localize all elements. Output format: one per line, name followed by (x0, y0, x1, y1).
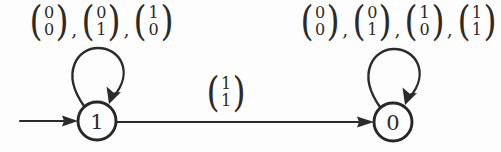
vector-bottom: 1 (367, 22, 377, 38)
state-diagram-canvas: 1 0 ( 0 0 ) , ( 0 1 ) , ( (0, 0, 501, 152)
vector-label: ( 0 0 ) (299, 5, 341, 39)
vector-label: ( 0 0 ) (28, 5, 70, 39)
vector-entries: 1 1 (221, 76, 231, 109)
self-loop-state-1 (73, 48, 124, 106)
vector-entries: 0 1 (96, 5, 106, 38)
vector-bottom: 0 (44, 22, 54, 38)
left-paren: ( (134, 5, 147, 39)
state-node-1[interactable]: 1 (78, 102, 116, 140)
vector-entries: 1 0 (419, 5, 429, 38)
right-paren: ) (233, 76, 246, 110)
label-separator: , (122, 18, 132, 40)
left-paren: ( (29, 5, 42, 39)
right-paren: ) (160, 5, 173, 39)
left-paren: ( (405, 5, 418, 39)
vector-label: ( 1 1 ) (456, 5, 498, 39)
vector-bottom: 0 (315, 22, 325, 38)
vector-entries: 1 1 (472, 5, 482, 38)
left-paren: ( (457, 5, 470, 39)
vector-label: ( 1 0 ) (132, 5, 174, 39)
vector-bottom: 1 (96, 22, 106, 38)
vector-bottom: 1 (221, 93, 231, 109)
right-paren: ) (431, 5, 444, 39)
self-loop-left-label-group: ( 0 0 ) , ( 0 1 ) , ( 1 0 ) (28, 5, 175, 39)
state-node-0-label: 0 (386, 111, 399, 135)
vector-label: ( 0 1 ) (351, 5, 393, 39)
right-paren: ) (108, 5, 121, 39)
vector-bottom: 0 (148, 22, 158, 38)
left-paren: ( (206, 76, 219, 110)
right-paren: ) (327, 5, 340, 39)
start-arrow (20, 116, 78, 127)
vector-label: ( 1 1 ) (205, 76, 247, 110)
label-separator: , (446, 18, 456, 40)
right-paren: ) (379, 5, 392, 39)
self-loop-right-label-group: ( 0 0 ) , ( 0 1 ) , ( 1 0 ) , (299, 5, 498, 39)
left-paren: ( (353, 5, 366, 39)
state-node-1-label: 1 (90, 110, 103, 134)
vector-entries: 0 0 (315, 5, 325, 38)
vector-bottom: 1 (472, 22, 482, 38)
state-node-0[interactable]: 0 (374, 103, 412, 141)
vector-label: ( 0 1 ) (80, 5, 122, 39)
self-loop-state-0 (369, 49, 420, 107)
right-paren: ) (56, 5, 69, 39)
vector-entries: 0 0 (44, 5, 54, 38)
transition-label-group: ( 1 1 ) (205, 76, 247, 110)
vector-entries: 1 0 (148, 5, 158, 38)
label-separator: , (70, 18, 80, 40)
right-paren: ) (483, 5, 496, 39)
vector-entries: 0 1 (367, 5, 377, 38)
label-separator: , (341, 18, 351, 40)
vector-label: ( 1 0 ) (403, 5, 445, 39)
left-paren: ( (300, 5, 313, 39)
left-paren: ( (82, 5, 95, 39)
transition-arrow-1-to-0 (116, 117, 374, 128)
vector-bottom: 0 (419, 22, 429, 38)
label-separator: , (393, 18, 403, 40)
